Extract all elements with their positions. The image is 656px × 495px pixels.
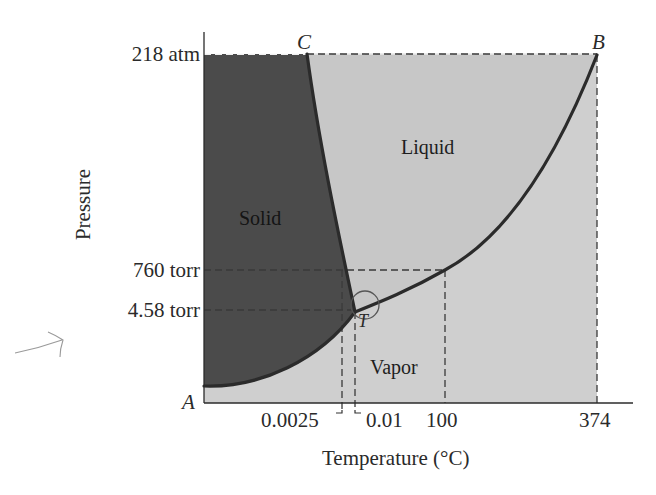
y-tick-458torr: 4.58 torr [100,300,200,321]
y-tick-218atm: 218 atm [104,44,200,65]
y-tick-760torr: 760 torr [104,260,200,281]
x-tick-001: 0.01 [366,410,403,431]
point-label-b: B [592,32,605,53]
x-tick-00025: 0.0025 [261,410,319,431]
region-label-liquid: Liquid [401,137,454,157]
point-label-t: T [358,312,368,330]
point-label-c: C [297,32,311,53]
x-tick-374: 374 [579,410,611,431]
y-axis-title: Pressure [73,169,94,240]
handwritten-arrow-mark [15,332,63,357]
x-axis-title: Temperature (°C) [322,448,469,469]
tick-hook-00025 [336,410,342,413]
point-label-a: A [182,392,195,413]
region-label-vapor: Vapor [370,357,418,377]
tick-hook-001 [355,410,361,413]
x-tick-100: 100 [426,410,458,431]
phase-diagram [0,0,656,495]
region-label-solid: Solid [239,208,281,228]
